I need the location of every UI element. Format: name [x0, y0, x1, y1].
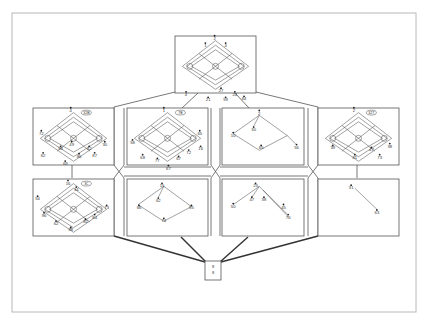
root-connectors: [114, 236, 318, 262]
panel-tag: 3C: [84, 182, 89, 186]
node-label: 39: [330, 145, 335, 150]
node-label: 53: [58, 146, 63, 151]
root-box: 8 8: [205, 261, 221, 280]
node-label: 38: [387, 144, 392, 149]
panel-tag: 32T: [368, 111, 375, 115]
node-label: 67: [176, 156, 181, 161]
node-label: 73: [377, 155, 382, 160]
node-label: 31: [349, 185, 354, 190]
node-label: 82: [83, 219, 88, 224]
panel-bot-4: 3163: [318, 179, 399, 236]
node-label: 30: [251, 127, 256, 132]
node-label: 47: [249, 197, 254, 202]
panel-tag: 7B: [178, 111, 183, 115]
panel-mid-4: 32T23981477338: [318, 107, 399, 165]
node-label: 55: [189, 205, 194, 210]
node-label: 81: [352, 155, 357, 160]
node-label: 56: [294, 145, 299, 150]
channel-lines: [72, 107, 357, 236]
lattice-diagram: 8 8 2142724644215932B4725362498642873069…: [0, 0, 430, 323]
node-label: 72: [186, 150, 191, 155]
node-label: 88: [68, 227, 73, 232]
node-label: 73: [104, 205, 109, 210]
panel-mid-3: 230106556: [222, 108, 304, 165]
node-label: 54: [35, 196, 40, 201]
panel-tag: 32B: [83, 111, 90, 115]
node-label: 15: [160, 183, 165, 188]
node-label: 77: [155, 158, 160, 163]
node-label: 24: [232, 92, 237, 97]
node-label: 65: [197, 131, 202, 136]
node-label: 49: [69, 142, 74, 147]
node-label: 62: [54, 221, 59, 226]
node-label: 38: [262, 197, 267, 202]
node-label: 63: [375, 210, 380, 215]
node-label: 23: [253, 183, 258, 188]
node-label: 21: [206, 97, 211, 102]
node-label: 64: [242, 96, 247, 101]
panel-top: 21427246442159: [175, 35, 256, 102]
node-label: 42: [87, 146, 92, 151]
node-label: 47: [369, 147, 374, 152]
node-label: 16: [198, 146, 203, 151]
node-label: 16: [66, 181, 71, 186]
node-label: 30: [102, 142, 107, 147]
panel-bot-2: 1562665574: [127, 179, 208, 236]
node-label: 62: [156, 198, 161, 203]
node-label: 84: [92, 215, 97, 220]
node-label: 86: [77, 154, 82, 159]
panel-mid-2: 7B15868776767726516: [127, 107, 208, 171]
node-label: 67: [166, 166, 171, 171]
node-label: 72: [39, 131, 44, 136]
node-label: 96: [42, 213, 47, 218]
node-label: 74: [161, 218, 166, 223]
node-label: 34: [74, 187, 79, 192]
node-label: 87: [92, 153, 97, 158]
node-label: 45: [281, 205, 286, 210]
node-label: 69: [63, 161, 68, 166]
panel-mid-1: 32B4725362498642873069: [33, 107, 114, 166]
node-label: 27: [219, 88, 224, 93]
node-label: 10: [231, 133, 236, 138]
panel-bot-3: 234738504570: [222, 179, 304, 236]
node-label: 66: [137, 205, 142, 210]
panel-bot-1: 3C163454966288828473: [33, 179, 114, 236]
node-label: 58: [130, 140, 135, 145]
node-label: 59: [223, 97, 228, 102]
node-label: 62: [41, 153, 46, 158]
node-label: 65: [259, 145, 264, 150]
node-label: 68: [140, 155, 145, 160]
node-label: 50: [231, 204, 236, 209]
top-connectors: [114, 92, 318, 108]
node-label: 70: [286, 215, 291, 220]
